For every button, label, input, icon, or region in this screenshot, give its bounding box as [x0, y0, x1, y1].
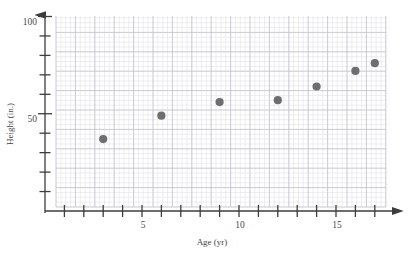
grid-minor-lines	[56, 16, 386, 207]
x-tick-label-5: 5	[141, 220, 146, 230]
x-tick-label-15: 15	[332, 220, 342, 230]
data-point	[313, 82, 321, 90]
x-axis-title: Age (yr)	[197, 237, 228, 247]
x-tick-label-10: 10	[235, 220, 245, 230]
data-point	[157, 112, 165, 120]
data-point	[216, 98, 224, 106]
y-tick-label-50: 50	[28, 114, 38, 124]
data-point	[274, 96, 282, 104]
data-point	[371, 59, 379, 67]
y-axis-title: Height (in.)	[5, 103, 15, 145]
data-point	[99, 135, 107, 143]
y-tick-label-100: 100	[23, 17, 38, 27]
scatter-plot-figure: 100 50 5 10 15 Age (yr) Height (in.)	[0, 0, 410, 254]
data-point	[351, 67, 359, 75]
data-point-series	[99, 59, 379, 143]
plot-canvas: 100 50 5 10 15 Age (yr) Height (in.)	[0, 0, 410, 254]
